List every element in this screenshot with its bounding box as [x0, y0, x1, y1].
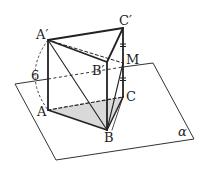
- label-c-prime: C′: [119, 13, 132, 28]
- label-plane-alpha: α: [178, 124, 187, 139]
- prism-diagram: A′ C′ B′ M 6 A C B α: [0, 0, 210, 174]
- label-m: M: [126, 52, 139, 67]
- label-a: A: [36, 104, 47, 119]
- label-b: B: [104, 130, 114, 145]
- label-c: C: [126, 89, 136, 104]
- label-a-prime: A′: [35, 27, 48, 42]
- label-b-prime: B′: [92, 63, 105, 78]
- label-length: 6: [31, 68, 39, 83]
